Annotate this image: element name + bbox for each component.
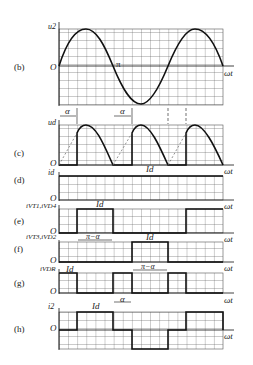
panel-label-d: (d) xyxy=(14,175,25,185)
origin-c: O xyxy=(50,158,57,168)
pi-minus-alpha-f: π−α xyxy=(141,262,155,271)
origin-h: O xyxy=(50,323,57,333)
id-label-g: Id xyxy=(66,264,74,274)
ylabel-d: id xyxy=(48,168,54,177)
xlabel-e: ωt xyxy=(224,234,233,244)
id-label-f: Id xyxy=(146,232,154,242)
xlabel-b: ωt xyxy=(224,68,233,78)
xlabel-g: ωt xyxy=(224,295,233,305)
waveform-diagram xyxy=(0,0,253,365)
panel-label-b: (b) xyxy=(14,62,25,72)
ylabel-e: iVT1,iVD4 xyxy=(26,202,56,210)
ylabel-b: u2 xyxy=(48,22,56,31)
panel-label-c: (c) xyxy=(14,148,24,158)
xlabel-d: ωt xyxy=(224,201,233,211)
panel-label-g: (g) xyxy=(14,278,25,288)
panel-d xyxy=(59,172,234,201)
ylabel-h: i2 xyxy=(48,302,54,311)
id-label-e: Id xyxy=(96,199,104,209)
origin-b: O xyxy=(50,62,57,72)
xlabel-c: ωt xyxy=(224,166,233,176)
origin-g: O xyxy=(50,286,57,296)
id-label-h: Id xyxy=(92,301,100,311)
panel-h xyxy=(59,308,234,350)
alpha-label-2: α xyxy=(120,106,125,116)
ylabel-c: ud xyxy=(48,118,56,127)
pi-minus-alpha-e: π−α xyxy=(86,232,100,241)
alpha-label-g: α xyxy=(120,294,125,304)
xlabel-f: ωt xyxy=(224,263,233,273)
ylabel-g: iVDR xyxy=(40,265,56,273)
id-label-d: Id xyxy=(146,164,154,174)
panel-c xyxy=(59,108,234,166)
panel-label-f: (f) xyxy=(14,244,23,254)
ylabel-f: iVT3,iVD2 xyxy=(26,233,56,241)
panel-label-h: (h) xyxy=(14,324,25,334)
origin-f: O xyxy=(50,255,57,265)
xlabel-h: ωt xyxy=(224,331,233,341)
pi-label: π xyxy=(116,59,121,69)
alpha-label-1: α xyxy=(65,106,70,116)
panel-g xyxy=(59,269,234,302)
panel-label-e: (e) xyxy=(14,216,24,226)
panel-b xyxy=(59,22,234,106)
